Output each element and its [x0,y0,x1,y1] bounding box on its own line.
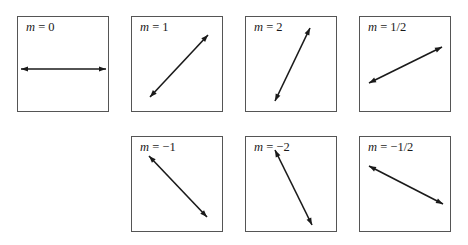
panel-slope-2: m = 2 [245,16,337,112]
line-arrow-icon [18,17,110,113]
panel-slope-neg-half: m = −1/2 [359,136,451,232]
panel-slope-half: m = 1/2 [359,16,451,112]
panel-slope-neg1: m = −1 [131,136,223,232]
line-arrow-icon [246,137,338,233]
panel-slope-1: m = 1 [131,16,223,112]
line-arrow-icon [246,17,338,113]
panel-slope-0: m = 0 [17,16,109,112]
line-arrow-icon [360,17,452,113]
line-arrow-icon [360,137,452,233]
panel-slope-neg2: m = −2 [245,136,337,232]
line-arrow-icon [132,17,224,113]
line-arrow-icon [132,137,224,233]
